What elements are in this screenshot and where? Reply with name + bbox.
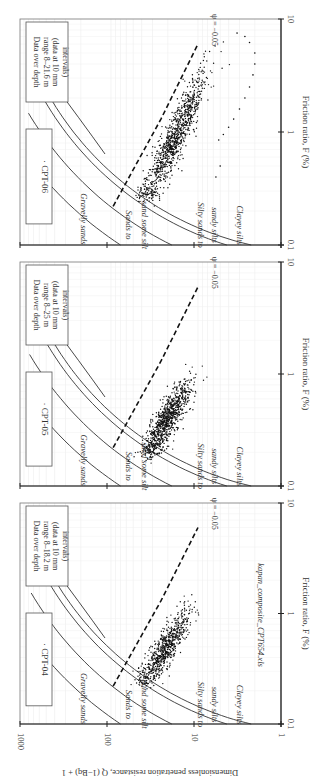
legend-label: · CPT-06 [40, 160, 50, 193]
note-line: (data at 10 mm [51, 522, 60, 571]
data-points [135, 32, 255, 206]
note-line: intervals) [61, 531, 70, 562]
zone-label: sand some silt [140, 201, 150, 250]
psi-label: ψ = −0.05 [210, 257, 219, 289]
zone-label: sand some silt [140, 680, 150, 729]
f-tick-label: 10 [286, 499, 296, 508]
note-line: (data at 10 mm [51, 281, 60, 330]
note-line: Data over depth [32, 520, 41, 571]
zone-label: Silty sands to [196, 444, 206, 489]
q-tick-label: 1000 [16, 733, 26, 750]
note-line: range 8–18.2 m [42, 521, 51, 572]
zone-label: Gravelly sands [79, 193, 89, 245]
note-line: (data at 10 mm [51, 38, 60, 87]
x-axis-label: Friction ratio, F (%) [301, 338, 311, 411]
zone-label: sandy silts [210, 448, 220, 484]
zone-label: Sands to [124, 211, 134, 240]
zone-label: Silty sands to [196, 682, 206, 727]
note-line: range 8–25 m [42, 283, 51, 328]
q-tick-label: 100 [103, 733, 113, 746]
f-tick-label: 1 [286, 130, 296, 134]
panel-cpt-05: 0.1110Friction ratio, F (%)ψ = −0.05Grav… [20, 257, 311, 491]
y-axis-label: Dimensionless penetration resistance, Q … [62, 768, 238, 778]
q-tick-label: 1 [277, 733, 287, 737]
f-tick-label: 10 [286, 258, 296, 267]
note-line: intervals) [61, 290, 70, 321]
zone-label: Clayey silts [235, 685, 245, 725]
f-tick-label: 1 [286, 611, 296, 615]
data-points [130, 594, 199, 689]
legend-label: · CPT-05 [40, 403, 50, 436]
source-note: kapan_composite_CPT654.xls [256, 563, 266, 667]
cpt-classification-figure: 0.1110Friction ratio, F (%)ψ = −0.05Grav… [0, 0, 329, 784]
zone-label: Sands to [124, 452, 134, 481]
psi-label: ψ = −0.05 [210, 14, 219, 46]
zone-label: Clayey silts [235, 205, 245, 245]
f-tick-label: 0.1 [286, 719, 296, 730]
zone-label: Silty sands to [196, 202, 206, 247]
q-tick-label: 10 [190, 733, 200, 742]
legend-label: · CPT-04 [40, 643, 50, 676]
x-axis-label: Friction ratio, F (%) [301, 96, 311, 169]
psi-label: ψ = −0.05 [210, 498, 219, 530]
zone-label: Gravelly sands [79, 673, 89, 725]
note-line: intervals) [61, 47, 70, 78]
zone-label: Sands to [124, 690, 134, 719]
zone-label: sandy silts [210, 207, 220, 243]
f-tick-label: 1 [286, 372, 296, 376]
f-tick-label: 0.1 [286, 240, 296, 251]
x-axis-label: Friction ratio, F (%) [301, 577, 311, 650]
zone-label: sandy silts [210, 687, 220, 723]
note-line: Data over depth [32, 279, 41, 330]
note-line: Data over depth [32, 36, 41, 87]
zone-label: sand some silt [140, 442, 150, 491]
zone-label: Gravelly sands [79, 435, 89, 487]
panel-cpt-04: 0.1110Friction ratio, F (%)ψ = −0.05Grav… [20, 498, 311, 730]
note-line: range 8–21.6 m [42, 37, 51, 88]
panel-cpt-06: 0.1110Friction ratio, F (%)ψ = −0.05Grav… [20, 14, 311, 250]
zone-label: Clayey silts [235, 447, 245, 487]
f-tick-label: 0.1 [286, 481, 296, 492]
f-tick-label: 10 [286, 15, 296, 24]
